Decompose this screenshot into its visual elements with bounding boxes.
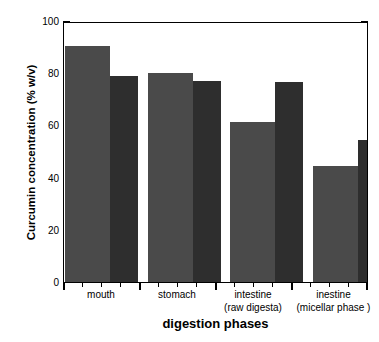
bar-inestine-micellar-phase-series-1 — [313, 166, 358, 282]
bar-intestine-raw-digesta-series-1 — [230, 122, 275, 283]
x-minor-tick — [101, 283, 102, 287]
y-axis-title: Curcumin concentration (% w/v) — [22, 22, 40, 283]
y-tick-label-20: 20 — [19, 225, 59, 236]
x-minor-tick — [82, 283, 83, 287]
x-group-label-line1: stomach — [139, 289, 215, 302]
x-minor-tick — [310, 283, 311, 287]
y-tick-label-40: 40 — [19, 173, 59, 184]
x-minor-tick — [272, 283, 273, 287]
plot-area — [63, 22, 368, 283]
x-minor-tick — [329, 283, 330, 287]
x-minor-tick — [120, 283, 121, 287]
x-group-label-line1: mouth — [63, 289, 139, 302]
x-group-label-line2: (raw digesta) — [213, 302, 293, 315]
x-group-label-line1: inestine — [288, 289, 379, 302]
bar-stomach-series-2 — [193, 81, 221, 282]
y-tick-label-60: 60 — [19, 120, 59, 131]
x-minor-tick — [158, 283, 159, 287]
x-group-label-line1: intestine — [213, 289, 293, 302]
x-minor-tick — [177, 283, 178, 287]
bar-mouth-series-1 — [65, 46, 110, 282]
x-axis-title: digestion phases — [63, 316, 368, 331]
x-minor-tick — [348, 283, 349, 287]
x-group-label-stomach: stomach — [139, 289, 215, 302]
y-tick-label-100: 100 — [19, 16, 59, 27]
x-group-label-mouth: mouth — [63, 289, 139, 302]
bar-intestine-raw-digesta-series-2 — [275, 82, 303, 282]
chart-figure: Curcumin concentration (% w/v) 100 80 60… — [0, 0, 379, 342]
x-group-label-intestine-raw-digesta: intestine (raw digesta) — [213, 289, 293, 314]
y-tick-label-80: 80 — [19, 68, 59, 79]
bar-inestine-micellar-phase-series-2 — [358, 140, 368, 282]
x-group-label-line2: (micellar phase ) — [288, 302, 379, 315]
x-group-label-inestine-micellar-phase: inestine (micellar phase ) — [288, 289, 379, 314]
y-tick-label-0: 0 — [19, 277, 59, 288]
bar-mouth-series-2 — [110, 76, 138, 282]
bar-stomach-series-1 — [148, 73, 193, 282]
x-minor-tick — [253, 283, 254, 287]
x-minor-tick — [234, 283, 235, 287]
x-minor-tick — [196, 283, 197, 287]
